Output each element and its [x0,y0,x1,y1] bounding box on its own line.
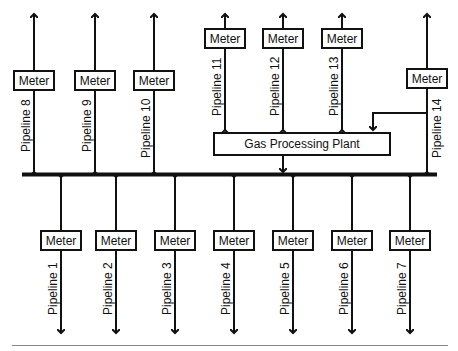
label-pipeline-7: Pipeline 7 [395,262,409,315]
bottom-divider [12,345,448,346]
label-pipeline-12: Pipeline 12 [268,57,282,116]
gas-processing-plant: Gas Processing Plant [213,132,391,156]
label-pipeline-5: Pipeline 5 [278,262,292,315]
pipeline-14-branch [373,113,427,130]
label-pipeline-11: Pipeline 11 [210,58,224,117]
label-pipeline-3: Pipeline 3 [160,262,174,315]
meter-pipeline-11: Meter [204,28,246,49]
label-pipeline-4: Pipeline 4 [219,262,233,315]
label-pipeline-13: Pipeline 13 [327,57,341,116]
meter-pipeline-1: Meter [40,230,82,251]
label-pipeline-2: Pipeline 2 [101,262,115,315]
meter-pipeline-7: Meter [389,230,431,251]
meter-pipeline-6: Meter [331,230,373,251]
meter-pipeline-3: Meter [154,230,196,251]
label-pipeline-9: Pipeline 9 [80,99,94,152]
meter-pipeline-5: Meter [272,230,314,251]
meter-pipeline-8: Meter [13,70,55,91]
meter-pipeline-10: Meter [133,70,175,91]
label-pipeline-10: Pipeline 10 [139,99,153,158]
label-pipeline-6: Pipeline 6 [337,262,351,315]
label-pipeline-8: Pipeline 8 [19,99,33,152]
meter-pipeline-9: Meter [74,70,116,91]
label-pipeline-14: Pipeline 14 [430,99,444,158]
meter-pipeline-13: Meter [321,28,363,49]
meter-pipeline-14: Meter [406,68,448,89]
meter-pipeline-2: Meter [95,230,137,251]
meter-pipeline-4: Meter [213,230,255,251]
label-pipeline-1: Pipeline 1 [46,262,60,315]
meter-pipeline-12: Meter [262,28,304,49]
